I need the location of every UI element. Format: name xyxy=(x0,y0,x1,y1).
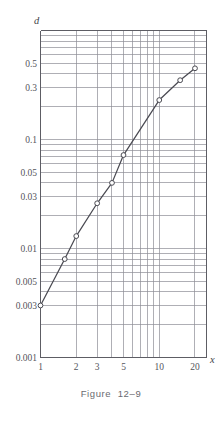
y-tick-label: 0.3 xyxy=(25,83,37,93)
chart-canvas: 0.0030.0050.010.030.050.10.30.50.001 123… xyxy=(0,0,222,427)
figure-log-log-plot: 0.0030.0050.010.030.050.10.30.50.001 123… xyxy=(0,0,222,427)
data-point-marker xyxy=(157,98,162,103)
data-point-marker xyxy=(62,257,67,262)
data-point-marker xyxy=(121,153,126,158)
x-tick-label: 5 xyxy=(121,362,126,372)
x-axis-name-label: x xyxy=(209,354,215,365)
y-tick-label: 0.05 xyxy=(20,168,37,178)
y-tick-label: 0.01 xyxy=(20,244,37,254)
y-axis-name-label: d xyxy=(34,15,40,26)
y-axis-tick-labels: 0.0030.0050.010.030.050.10.30.50.001 xyxy=(16,59,38,363)
data-point-markers xyxy=(38,66,197,308)
data-point-marker xyxy=(95,201,100,206)
y-tick-label: 0.5 xyxy=(25,59,37,69)
data-series-line xyxy=(41,68,195,305)
x-tick-label: 1 xyxy=(38,362,43,372)
y-tick-label: 0.005 xyxy=(16,277,38,287)
figure-caption: Figure 12–9 xyxy=(0,388,222,399)
data-point-marker xyxy=(110,180,115,185)
x-tick-label: 10 xyxy=(154,362,164,372)
x-tick-label: 20 xyxy=(190,362,200,372)
y-tick-label: 0.03 xyxy=(20,192,37,202)
data-point-marker xyxy=(193,66,198,71)
x-axis-tick-labels: 12351020 xyxy=(38,362,200,372)
y-tick-label: 0.001 xyxy=(16,353,38,363)
data-point-marker xyxy=(178,78,183,83)
x-tick-label: 2 xyxy=(74,362,79,372)
y-tick-label: 0.003 xyxy=(16,301,38,311)
data-point-marker xyxy=(74,234,79,239)
y-tick-label: 0.1 xyxy=(25,135,37,145)
grid-vertical-lines xyxy=(41,31,195,358)
data-point-marker xyxy=(38,303,43,308)
x-tick-label: 3 xyxy=(95,362,100,372)
